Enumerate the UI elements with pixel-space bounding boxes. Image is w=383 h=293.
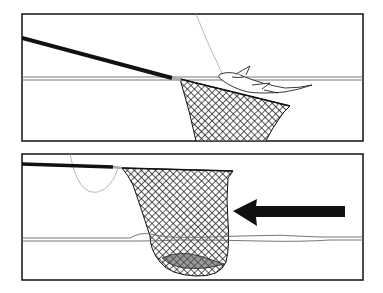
panel-2 [22,154,363,280]
pole-ferrule [113,167,122,168]
panel-1 [22,14,363,141]
illustration [0,0,383,293]
